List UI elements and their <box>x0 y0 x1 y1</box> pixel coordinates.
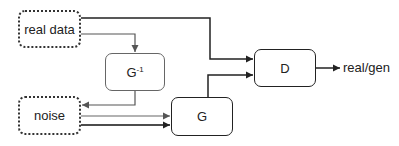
edge-g-to-d <box>208 75 253 97</box>
edge-g-inverse-to-noise <box>82 91 135 105</box>
edge-real-data-to-g-inverse <box>81 34 135 52</box>
node-real-data-label: real data <box>24 22 75 37</box>
node-noise-label: noise <box>34 108 65 123</box>
node-g-inverse: G-1 <box>105 53 165 91</box>
output-label: real/gen <box>343 60 390 75</box>
gan-diagram: real data G-1 noise G D real/gen <box>0 0 399 146</box>
node-generator: G <box>171 97 233 136</box>
superscript: -1 <box>137 65 144 74</box>
node-discriminator: D <box>254 49 316 87</box>
node-generator-label: G <box>197 109 207 124</box>
node-real-data: real data <box>18 10 81 48</box>
node-g-inverse-label: G-1 <box>126 65 143 80</box>
node-discriminator-label: D <box>280 61 289 76</box>
node-noise: noise <box>18 96 81 135</box>
edge-real-data-to-d <box>81 18 253 59</box>
